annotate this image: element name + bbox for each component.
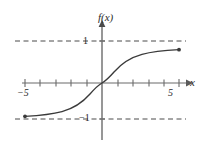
y-tick-label-upper: 1 [83, 36, 88, 46]
x-tick-label-min: −5 [17, 88, 29, 98]
curve-endpoint-left [23, 114, 27, 118]
x-axis-label: x [190, 77, 195, 88]
y-tick-label-lower: −1 [79, 113, 90, 123]
y-axis-label: f(x) [98, 12, 113, 23]
x-tick-label-max: 5 [168, 88, 173, 98]
function-graph-figure: f(x) x −5 5 1 −1 [0, 0, 204, 147]
curve-endpoint-right [177, 48, 181, 52]
